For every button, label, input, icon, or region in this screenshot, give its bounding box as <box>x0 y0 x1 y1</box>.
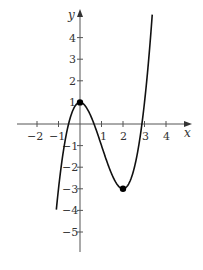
local-minimum-point <box>120 186 126 192</box>
y-axis-label: y <box>67 8 75 22</box>
y-tick-label: −2 <box>62 161 78 174</box>
y-tick-label: −4 <box>62 204 78 217</box>
x-tick-label: 2 <box>120 130 127 143</box>
x-axis-label: x <box>184 126 191 140</box>
y-tick-label: 3 <box>69 53 76 66</box>
x-tick-label: 4 <box>163 130 170 143</box>
local-maximum-point <box>77 99 83 105</box>
y-tick-label: −5 <box>62 226 78 239</box>
x-tick-label: 3 <box>142 130 149 143</box>
y-axis-arrow-icon <box>77 9 83 17</box>
y-tick-label: 4 <box>69 32 76 45</box>
x-tick-label: 1 <box>100 130 107 143</box>
function-graph: x y −2 −1 1 2 3 4 −5 −4 −3 −2 −1 1 2 3 <box>0 0 203 270</box>
x-tick-label: −2 <box>27 130 43 143</box>
y-tick-label: −3 <box>62 183 78 196</box>
y-tick-label: 2 <box>69 75 76 88</box>
